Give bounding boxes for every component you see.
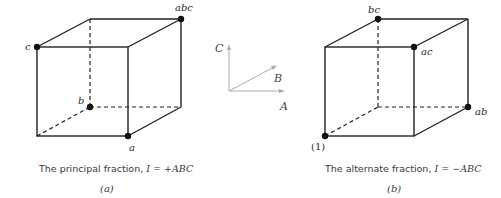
sublabel-a: (a) xyxy=(100,183,114,194)
factorial-design-figure: abc c b a The principal fraction, I = +A… xyxy=(0,0,501,198)
cube-b-front-face xyxy=(325,47,414,136)
label-ac: ac xyxy=(421,46,433,57)
label-bc: bc xyxy=(368,4,380,15)
axis-label-b: B xyxy=(273,72,282,85)
label-one: (1) xyxy=(311,141,325,152)
run-dot-b xyxy=(87,104,93,110)
label-c: c xyxy=(25,41,31,52)
label-a: a xyxy=(129,142,135,153)
run-dot-ab xyxy=(465,104,471,110)
label-b: b xyxy=(78,95,84,106)
cube-principal-fraction xyxy=(37,19,181,136)
run-dot-bc xyxy=(375,16,381,22)
run-dot-a xyxy=(125,133,131,139)
label-ab: ab xyxy=(475,106,487,117)
run-dot-one xyxy=(322,133,328,139)
cube-a-front-face xyxy=(37,47,128,136)
run-dot-ac xyxy=(411,44,417,50)
cube-a-runs xyxy=(34,16,184,139)
axis-label-a: A xyxy=(279,100,288,113)
label-abc: abc xyxy=(175,2,193,13)
caption-b: The alternate fraction, I = −ABC xyxy=(324,163,482,174)
axes-indicator xyxy=(227,44,285,93)
axis-label-c: C xyxy=(215,42,224,55)
cube-b-runs xyxy=(322,16,471,139)
caption-a: The principal fraction, I = +ABC xyxy=(38,163,194,174)
cube-alternate-fraction xyxy=(325,19,468,136)
run-dot-c xyxy=(34,44,40,50)
run-dot-abc xyxy=(178,16,184,22)
sublabel-b: (b) xyxy=(387,183,401,194)
